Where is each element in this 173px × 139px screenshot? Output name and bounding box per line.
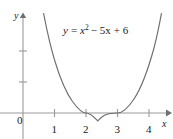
x-tick-label-3: 3 <box>115 123 121 135</box>
y-axis-arrow-icon <box>20 13 26 19</box>
equation-annotation: y=x2− 5x+ 6 <box>62 23 129 36</box>
equation-lhs: y <box>62 24 68 36</box>
svg-text:y=x2− 5x+ 6: y=x2− 5x+ 6 <box>62 23 129 36</box>
equation-equals: = <box>71 24 77 36</box>
y-axis-label: y <box>13 10 19 21</box>
figure-container: 0 1 2 3 4 x y y=x2− 5x+ 6 <box>0 0 173 139</box>
equation-term1-exponent: 2 <box>85 23 89 32</box>
x-axis-arrow-icon <box>166 110 172 117</box>
x-tick-label-2: 2 <box>83 123 89 135</box>
x-axis-label: x <box>161 118 167 129</box>
x-tick-label-4: 4 <box>146 123 152 135</box>
parabola-plot: 0 1 2 3 4 x y y=x2− 5x+ 6 <box>0 0 173 139</box>
equation-term2: − 5x <box>91 24 111 36</box>
x-tick-label-1: 1 <box>52 123 58 135</box>
origin-label: 0 <box>17 114 23 126</box>
equation-term3: + 6 <box>114 24 129 36</box>
